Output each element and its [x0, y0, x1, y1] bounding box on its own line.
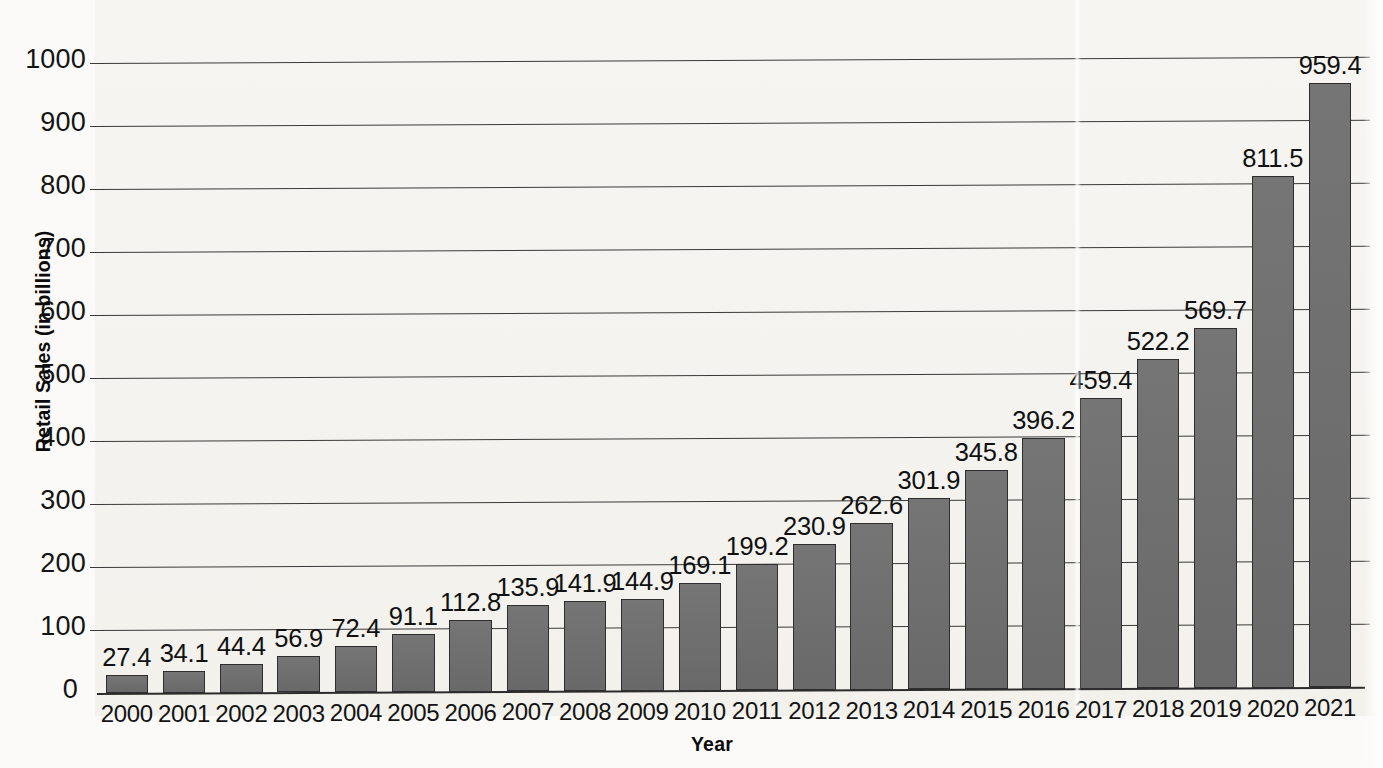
gridline [95, 183, 1370, 190]
bar-2011[interactable] [736, 564, 779, 690]
y-tick-mark [90, 252, 104, 253]
bar-2013[interactable] [850, 523, 893, 689]
y-tick-mark [90, 630, 104, 631]
gridline [95, 57, 1370, 64]
gridline [95, 246, 1370, 253]
bar-2003[interactable] [277, 656, 320, 693]
y-tick-mark [90, 567, 104, 568]
bar-2021[interactable] [1309, 83, 1352, 688]
chart-page: 01002003004005006007008009001000 27.434.… [0, 0, 1383, 768]
bar-2001[interactable] [163, 671, 206, 693]
bar-value-label: 345.8 [936, 438, 1036, 467]
y-tick-mark [90, 315, 104, 316]
bar-2000[interactable] [106, 675, 149, 693]
y-axis-title: Retail Sales (in billions) [32, 207, 55, 477]
bar-value-label: 811.5 [1223, 144, 1323, 173]
y-tick-mark [90, 504, 104, 505]
page-edge [1363, 0, 1383, 768]
bar-2019[interactable] [1194, 328, 1237, 688]
bar-2020[interactable] [1252, 176, 1295, 688]
bar-2018[interactable] [1137, 359, 1180, 689]
page-seam [1074, 0, 1081, 712]
y-tick-mark [90, 378, 104, 379]
bar-2015[interactable] [965, 470, 1008, 689]
bar-value-label: 262.6 [822, 491, 922, 520]
bar-2008[interactable] [564, 601, 607, 691]
y-tick-label: 800 [0, 170, 86, 201]
bar-2010[interactable] [679, 583, 722, 690]
x-tick-label: 2021 [1285, 694, 1375, 722]
x-axis-title: Year [642, 733, 782, 756]
gridline [95, 120, 1370, 127]
y-tick-label: 0 [0, 674, 78, 705]
bar-2007[interactable] [507, 605, 550, 692]
bar-2006[interactable] [449, 620, 492, 692]
bar-2017[interactable] [1080, 398, 1123, 688]
bar-2009[interactable] [621, 599, 664, 691]
y-tick-label: 300 [0, 485, 86, 516]
y-tick-mark [90, 189, 104, 190]
bar-value-label: 459.4 [1051, 366, 1151, 395]
bar-2004[interactable] [335, 646, 378, 693]
y-tick-label: 1000 [0, 44, 86, 75]
bar-2016[interactable] [1022, 438, 1065, 688]
y-tick-label: 900 [0, 107, 86, 138]
bar-chart-plot: 01002003004005006007008009001000 27.434.… [0, 0, 1383, 768]
bar-2014[interactable] [908, 498, 951, 689]
bar-2002[interactable] [220, 664, 263, 693]
bar-2005[interactable] [392, 634, 435, 692]
bar-2012[interactable] [793, 544, 836, 690]
bar-value-label: 569.7 [1165, 296, 1265, 325]
y-tick-mark [90, 63, 104, 64]
bar-value-label: 522.2 [1108, 327, 1208, 356]
bar-value-label: 301.9 [879, 466, 979, 495]
y-tick-mark [90, 441, 104, 442]
y-tick-mark [90, 126, 104, 127]
y-tick-label: 100 [0, 611, 86, 642]
y-tick-label: 200 [0, 548, 86, 579]
